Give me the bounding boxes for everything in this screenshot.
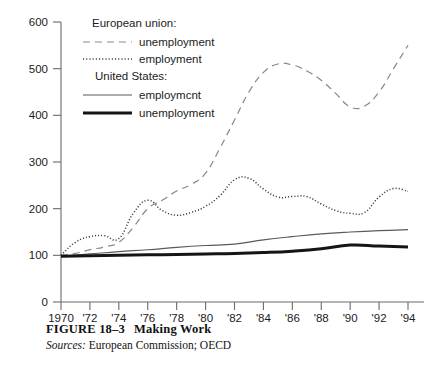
x-tick-label: 1970 <box>48 312 74 322</box>
x-tick-label: '88 <box>314 312 329 322</box>
y-tick-label: 600 <box>29 16 48 28</box>
axes-group <box>61 22 424 302</box>
legend-group-heading-us: United States: <box>95 70 167 82</box>
x-tick-label: '76 <box>140 312 155 322</box>
x-tick-label: '78 <box>169 312 184 322</box>
y-tick-label: 400 <box>29 109 48 121</box>
figure-title: Making Work <box>134 322 211 336</box>
figure-sources-line: Sources: European Commission; OECD <box>46 339 436 351</box>
legend-label-eu-employment: employment <box>139 53 202 65</box>
legend-label-eu-unemployment: unemployment <box>139 36 215 48</box>
y-tick-label: 300 <box>29 156 48 168</box>
x-tick-label: '86 <box>285 312 300 322</box>
y-tick-label: 500 <box>29 63 48 75</box>
figure-caption: FIGURE 18–3Making Work Sources: European… <box>46 322 436 351</box>
y-tick-label: 200 <box>29 203 48 215</box>
x-tick-label: '74 <box>111 312 127 322</box>
x-tick-label: '80 <box>198 312 213 322</box>
figure-sources-label: Sources: <box>46 339 86 351</box>
series-line-us-unemployment <box>61 245 408 256</box>
figure-container: 0100200300400500600 1970'72'74'76'78'80'… <box>0 0 440 368</box>
legend-group-heading-eu: European union: <box>92 17 176 29</box>
y-tick-label: 0 <box>42 296 48 308</box>
x-tick-label: '94 <box>401 312 417 322</box>
y-axis-ticks: 0100200300400500600 <box>29 16 61 308</box>
x-tick-label: '84 <box>256 312 272 322</box>
legend-label-us-employment: employmcnt <box>139 89 202 101</box>
x-tick-label: '90 <box>343 312 358 322</box>
figure-caption-title-line: FIGURE 18–3Making Work <box>46 322 436 337</box>
figure-number: FIGURE 18–3 <box>46 322 125 336</box>
x-tick-label: '92 <box>372 312 387 322</box>
y-tick-label: 100 <box>29 249 48 261</box>
chart-legend: European union: unemployment employment … <box>83 17 215 119</box>
figure-sources-text: European Commission; OECD <box>89 339 231 351</box>
x-tick-label: '82 <box>227 312 242 322</box>
x-tick-label: '72 <box>82 312 97 322</box>
chart-canvas: 0100200300400500600 1970'72'74'76'78'80'… <box>0 0 440 322</box>
x-axis-ticks: 1970'72'74'76'78'80'82'84'86'88'90'92'94 <box>48 302 416 322</box>
legend-label-us-unemployment: unemployment <box>139 107 215 119</box>
